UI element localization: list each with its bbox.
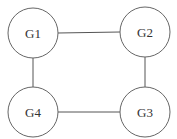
edge-g1-g2 bbox=[58, 32, 120, 33]
node-g1: G1 bbox=[8, 8, 58, 58]
node-g4: G4 bbox=[8, 87, 58, 137]
node-g1-label: G1 bbox=[25, 26, 41, 41]
graph-diagram: G1 G2 G3 G4 bbox=[0, 0, 177, 139]
node-g3-label: G3 bbox=[137, 105, 153, 120]
node-g3: G3 bbox=[120, 87, 170, 137]
node-g2-label: G2 bbox=[137, 25, 153, 40]
node-g4-label: G4 bbox=[25, 105, 41, 120]
node-g2: G2 bbox=[120, 7, 170, 57]
